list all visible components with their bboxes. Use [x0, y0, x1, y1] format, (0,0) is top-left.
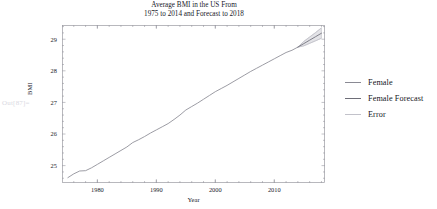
legend-item-female-forecast[interactable]: Female Forecast [345, 90, 437, 106]
y-tick-label: 25 [41, 162, 57, 169]
legend-label-error: Error [368, 110, 386, 119]
legend-swatch-female [345, 82, 361, 83]
chart-plot-svg [62, 25, 325, 183]
x-tick-label: 1990 [143, 186, 169, 193]
legend-label-female: Female [368, 78, 393, 87]
legend-item-error[interactable]: Error [345, 106, 437, 122]
series-line-female [68, 47, 298, 178]
x-tick-label: 1980 [84, 186, 110, 193]
y-tick-label: 29 [41, 36, 57, 43]
y-tick-label: 27 [41, 99, 57, 106]
x-tick-label: 2000 [202, 186, 228, 193]
chart-title: Average BMI in the US From 1975 to 2014 … [62, 1, 326, 20]
chart-legend: Female Female Forecast Error [345, 74, 437, 122]
y-tick-label: 28 [41, 67, 57, 74]
plot-frame [63, 26, 325, 183]
y-tick-label: 26 [41, 130, 57, 137]
output-cell-label: Out[87]= [2, 99, 30, 107]
notebook-output-cell: Out[87]= Average BMI in the US From 1975… [0, 0, 437, 209]
y-axis-label: BMI [26, 82, 33, 95]
x-axis-label: Year [62, 196, 325, 203]
plot-area [62, 25, 325, 183]
axis-ticks [62, 25, 325, 183]
legend-swatch-female-forecast [345, 98, 361, 99]
legend-label-female-forecast: Female Forecast [368, 94, 423, 103]
x-tick-label: 2010 [261, 186, 287, 193]
legend-swatch-error [345, 114, 361, 115]
legend-item-female[interactable]: Female [345, 74, 437, 90]
